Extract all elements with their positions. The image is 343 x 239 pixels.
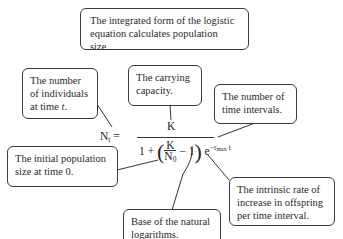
equation-denominator: 1 + (KN0 − 1) e−rmax t xyxy=(139,140,231,165)
eq-exp-t: t xyxy=(229,143,231,152)
callout-natural-log-base: Base of the natural logarithms. xyxy=(123,209,221,239)
eq-exp-max: max xyxy=(216,146,226,152)
title-box: The integrated form of the logistic equa… xyxy=(80,8,249,50)
eq-inner-n-sub: 0 xyxy=(173,155,177,164)
callout-k-text: The carrying capacity. xyxy=(136,72,190,96)
equation-fraction-line xyxy=(137,137,214,138)
callout-nt-line2: of individuals xyxy=(30,88,88,99)
eq-paren-open: ( xyxy=(157,139,164,164)
callout-carrying-capacity: The carrying capacity. xyxy=(128,65,202,106)
callout-nt-line3: at time xyxy=(30,101,62,112)
callout-nt-line1: The number xyxy=(30,75,81,86)
eq-inner-n: N xyxy=(164,150,172,162)
callout-t-text: The number of time intervals. xyxy=(222,91,284,115)
eq-exponent: −rmax t xyxy=(210,143,231,152)
callout-n0-text: The initial population size at time 0. xyxy=(15,153,106,177)
callout-nt-end: . xyxy=(64,101,67,112)
eq-minus-one: − 1 xyxy=(179,145,194,157)
callout-e-text: Base of the natural logarithms. xyxy=(131,216,210,239)
callout-initial-population: The initial population size at time 0. xyxy=(7,146,118,187)
equation-lhs: Nt = xyxy=(100,130,120,144)
eq-numerator-k: K xyxy=(167,120,175,132)
eq-inner-den: N0 xyxy=(164,151,176,165)
eq-denom-one: 1 + xyxy=(139,145,154,157)
eq-n-sub: t xyxy=(108,135,110,144)
eq-inner-fraction: KN0 xyxy=(164,140,176,165)
title-text: The integrated form of the logistic equa… xyxy=(90,15,234,52)
eq-equals: = xyxy=(113,130,120,142)
callout-intrinsic-rate: The intrinsic rate of increase in offspr… xyxy=(229,177,335,226)
callout-time-intervals: The number of time intervals. xyxy=(214,84,297,124)
callout-rmax-text: The intrinsic rate of increase in offspr… xyxy=(237,184,323,221)
callout-nt: The number of individuals at time t. xyxy=(22,68,98,119)
equation-numerator: K xyxy=(167,120,175,132)
eq-paren-close: ) xyxy=(194,139,201,164)
